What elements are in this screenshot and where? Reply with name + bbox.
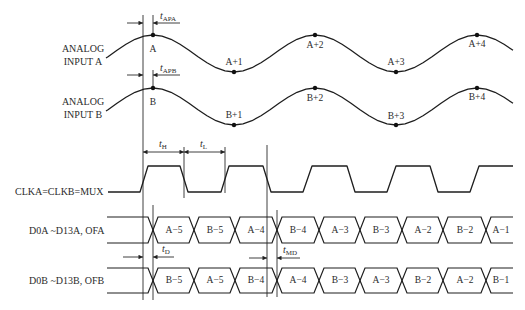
sample-label-a2: A+2 bbox=[307, 40, 324, 50]
sample-label-a4: A+4 bbox=[469, 39, 486, 49]
data-a-segment: A−5 bbox=[166, 225, 183, 235]
data-a-segment: B−3 bbox=[373, 225, 390, 235]
t-md-annotation: tMD bbox=[249, 244, 300, 258]
sample-label-b1: B+1 bbox=[226, 110, 243, 120]
data-a-segment: A−4 bbox=[248, 225, 265, 235]
data-a-segment: A−3 bbox=[332, 225, 349, 235]
sample-point-a4 bbox=[475, 33, 479, 37]
analog-a-label-line2: INPUT A bbox=[64, 56, 103, 67]
data-b-segment: B−1 bbox=[493, 275, 510, 285]
data-bus-a: D0A ~D13A, OFA A−5 B−5 A−4 B−4 A−3 B−3 A… bbox=[29, 217, 513, 243]
sample-point-a3 bbox=[394, 70, 398, 74]
sample-label-b3: B+3 bbox=[388, 111, 405, 121]
data-a-segment: A−2 bbox=[415, 225, 432, 235]
data-a-segment: B−2 bbox=[457, 225, 474, 235]
sample-point-a1 bbox=[232, 70, 236, 74]
data-bus-b: D0B ~D13B, OFB B−5 A−5 B−4 A−4 B−3 A−3 B… bbox=[29, 268, 513, 293]
data-a-segment: B−4 bbox=[290, 225, 307, 235]
data-a-segment: A−1 bbox=[493, 225, 510, 235]
data-b-segment: A−5 bbox=[207, 275, 224, 285]
data-b-segment: A−3 bbox=[373, 275, 390, 285]
sample-point-b4 bbox=[475, 86, 479, 90]
sample-label-a1: A+1 bbox=[226, 57, 243, 67]
data-a-segment: B−5 bbox=[207, 225, 224, 235]
sample-point-a2 bbox=[313, 33, 317, 37]
sample-label-b2: B+2 bbox=[307, 93, 324, 103]
clock-signal: CLKA=CLKB=MUX bbox=[15, 166, 513, 197]
timing-diagram: ANALOG INPUT A A A+1 A+2 A+3 A+4 tAPA AN… bbox=[0, 0, 525, 310]
data-a-label: D0A ~D13A, OFA bbox=[29, 225, 105, 236]
clock-label: CLKA=CLKB=MUX bbox=[15, 186, 104, 197]
sample-label-a: A bbox=[150, 44, 157, 54]
t-md-label: tMD bbox=[283, 244, 297, 257]
analog-b-label-line1: ANALOG bbox=[62, 96, 104, 107]
sample-label-b: B bbox=[150, 97, 156, 107]
t-l-label: tL bbox=[200, 138, 207, 151]
sample-point-b3 bbox=[394, 123, 398, 127]
analog-input-a: ANALOG INPUT A A A+1 A+2 A+3 A+4 bbox=[62, 33, 513, 74]
data-b-segment: B−5 bbox=[166, 275, 183, 285]
data-b-segment: A−2 bbox=[457, 275, 474, 285]
t-h-label: tH bbox=[159, 138, 167, 151]
data-b-label: D0B ~D13B, OFB bbox=[29, 275, 104, 286]
t-apb-annotation: tAPB bbox=[127, 62, 180, 75]
sample-label-a3: A+3 bbox=[388, 57, 405, 67]
data-b-segment: B−2 bbox=[415, 275, 432, 285]
sample-point-b bbox=[151, 86, 155, 90]
t-d-label: tD bbox=[162, 243, 170, 256]
t-apa-annotation: tAPA bbox=[127, 10, 180, 23]
analog-b-label-line2: INPUT B bbox=[64, 109, 103, 120]
t-apb-label: tAPB bbox=[160, 62, 177, 75]
clock-waveform bbox=[108, 166, 513, 192]
data-b-segment: A−4 bbox=[290, 275, 307, 285]
data-b-segment: B−3 bbox=[332, 275, 349, 285]
analog-a-label-line1: ANALOG bbox=[62, 43, 104, 54]
t-apa-label: tAPA bbox=[160, 10, 176, 23]
t-l-annotation: tL bbox=[184, 138, 225, 152]
sample-label-b4: B+4 bbox=[469, 92, 486, 102]
sample-point-b2 bbox=[313, 86, 317, 90]
t-d-annotation: tD bbox=[123, 243, 174, 257]
data-b-segment: B−4 bbox=[248, 275, 265, 285]
analog-input-b: ANALOG INPUT B B B+1 B+2 B+3 B+4 bbox=[62, 86, 513, 127]
sample-point-a bbox=[151, 33, 155, 37]
t-h-annotation: tH bbox=[143, 138, 184, 152]
sample-point-b1 bbox=[232, 123, 236, 127]
